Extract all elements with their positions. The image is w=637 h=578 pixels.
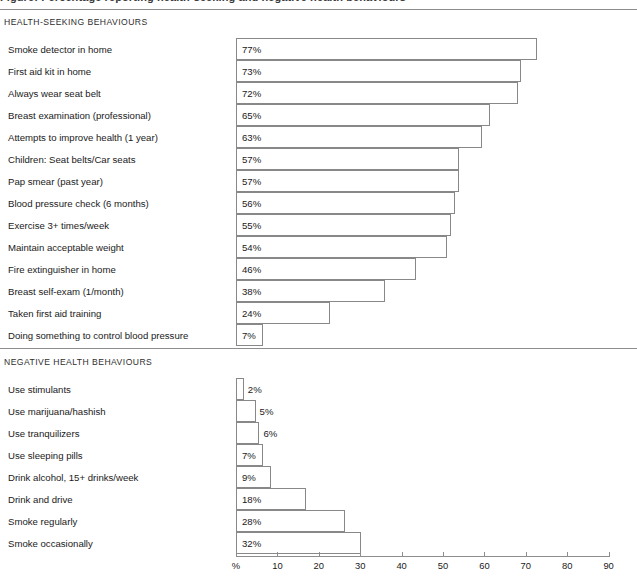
bar-category-label: Drink and drive: [8, 494, 73, 505]
bar-row: Use sleeping pills7%: [0, 444, 637, 466]
bar: [236, 422, 259, 444]
bar-category-label: Breast self-exam (1/month): [8, 286, 124, 297]
bar-value-label: 9%: [242, 472, 256, 483]
x-axis-tick-label: 60: [479, 560, 489, 571]
bar-category-label: Blood pressure check (6 months): [8, 198, 149, 209]
bar-row: Attempts to improve health (1 year)63%: [0, 126, 637, 148]
bar-value-label: 56%: [242, 198, 261, 209]
bar-category-label: Children: Seat belts/Car seats: [8, 154, 135, 165]
x-axis-tick: [360, 552, 361, 557]
x-axis-line: [236, 556, 610, 557]
bar: [236, 104, 490, 126]
bar-row: Drink alcohol, 15+ drinks/week9%: [0, 466, 637, 488]
bar-value-label: 54%: [242, 242, 261, 253]
bar-category-label: Use marijuana/hashish: [8, 406, 106, 417]
bar-value-label: 73%: [242, 66, 261, 77]
bar-category-label: Smoke occasionally: [8, 538, 93, 549]
x-axis-tick-label: 80: [562, 560, 572, 571]
x-axis-tick-label: 30: [355, 560, 365, 571]
x-axis-tick: [319, 552, 320, 557]
x-axis-tick-label: 40: [396, 560, 406, 571]
bar-value-label: 57%: [242, 154, 261, 165]
bar-category-label: Use tranquilizers: [8, 428, 79, 439]
bar-value-label: 77%: [242, 44, 261, 55]
bar-value-label: 46%: [242, 264, 261, 275]
bar-row: Taken first aid training24%: [0, 302, 637, 324]
bar-category-label: First aid kit in home: [8, 66, 91, 77]
bar-row: First aid kit in home73%: [0, 60, 637, 82]
bar-value-label: 5%: [260, 406, 274, 417]
bar-value-label: 28%: [242, 516, 261, 527]
bar-category-label: Pap smear (past year): [8, 176, 103, 187]
bar: [236, 378, 244, 400]
bar-category-label: Maintain acceptable weight: [8, 242, 124, 253]
bar-row: Breast examination (professional)65%: [0, 104, 637, 126]
bar-row: Fire extinguisher in home46%: [0, 258, 637, 280]
x-axis-tick: [609, 552, 610, 557]
x-axis-tick: [484, 552, 485, 557]
x-axis-tick-label: 20: [314, 560, 324, 571]
bar-value-label: 7%: [242, 450, 256, 461]
x-axis-tick: [567, 552, 568, 557]
bar-value-label: 72%: [242, 88, 261, 99]
bar-row: Exercise 3+ times/week55%: [0, 214, 637, 236]
bar-category-label: Fire extinguisher in home: [8, 264, 116, 275]
bar: [236, 400, 256, 422]
bar-value-label: 63%: [242, 132, 261, 143]
bar-value-label: 32%: [242, 538, 261, 549]
bar-category-label: Use sleeping pills: [8, 450, 83, 461]
bar-value-label: 24%: [242, 308, 261, 319]
x-axis-tick-label: 10: [272, 560, 282, 571]
bar-value-label: 57%: [242, 176, 261, 187]
x-axis-tick: [402, 552, 403, 557]
bar: [236, 38, 537, 60]
bar-category-label: Taken first aid training: [8, 308, 101, 319]
x-axis-tick-label: %: [232, 560, 240, 571]
bar-row: Smoke regularly28%: [0, 510, 637, 532]
bar: [236, 126, 482, 148]
bar-row: Use stimulants2%: [0, 378, 637, 400]
x-axis-tick: [277, 552, 278, 557]
bar: [236, 170, 459, 192]
bar-value-label: 7%: [242, 330, 256, 341]
bar-row: Blood pressure check (6 months)56%: [0, 192, 637, 214]
bar: [236, 192, 455, 214]
bar-category-label: Exercise 3+ times/week: [8, 220, 109, 231]
bar: [236, 258, 416, 280]
bar-value-label: 2%: [248, 384, 262, 395]
bar-value-label: 6%: [263, 428, 277, 439]
bar-chart-plot: Smoke detector in home77%First aid kit i…: [0, 0, 637, 578]
bar-row: Maintain acceptable weight54%: [0, 236, 637, 258]
bar-category-label: Breast examination (professional): [8, 110, 151, 121]
bar-row: Drink and drive18%: [0, 488, 637, 510]
bar-row: Doing something to control blood pressur…: [0, 324, 637, 346]
x-axis-tick-label: 50: [438, 560, 448, 571]
bar: [236, 60, 521, 82]
bar-row: Pap smear (past year)57%: [0, 170, 637, 192]
x-axis-tick: [443, 552, 444, 557]
bar-category-label: Attempts to improve health (1 year): [8, 132, 158, 143]
bar-row: Use marijuana/hashish5%: [0, 400, 637, 422]
bar-row: Breast self-exam (1/month)38%: [0, 280, 637, 302]
x-axis-tick-label: 70: [521, 560, 531, 571]
bar-value-label: 38%: [242, 286, 261, 297]
x-axis-tick-label: 90: [603, 560, 613, 571]
bar-category-label: Smoke regularly: [8, 516, 77, 527]
bar-row: Use tranquilizers6%: [0, 422, 637, 444]
bar-row: Smoke occasionally32%: [0, 532, 637, 554]
bar-row: Children: Seat belts/Car seats57%: [0, 148, 637, 170]
x-axis-tick: [236, 552, 237, 557]
bar: [236, 82, 518, 104]
bar-value-label: 55%: [242, 220, 261, 231]
bar-category-label: Doing something to control blood pressur…: [8, 330, 188, 341]
bar-row: Smoke detector in home77%: [0, 38, 637, 60]
bar-category-label: Use stimulants: [8, 384, 71, 395]
bar: [236, 148, 459, 170]
bar-category-label: Smoke detector in home: [8, 44, 112, 55]
bar: [236, 236, 447, 258]
x-axis-tick: [526, 552, 527, 557]
bar-value-label: 18%: [242, 494, 261, 505]
bar-category-label: Drink alcohol, 15+ drinks/week: [8, 472, 138, 483]
bar: [236, 214, 451, 236]
bar-category-label: Always wear seat belt: [8, 88, 101, 99]
